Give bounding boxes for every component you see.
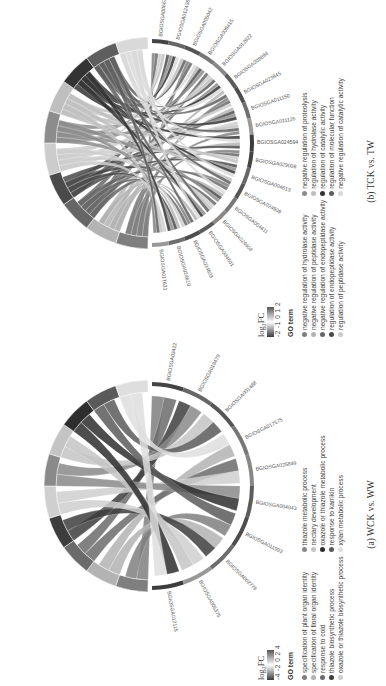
legend-dot-icon — [338, 675, 343, 680]
gene-label: BGIOSGA011993 — [245, 531, 284, 555]
gene-arc — [152, 39, 169, 45]
legend-label: regulation of hydrolase activity — [309, 100, 318, 189]
gene-arc — [247, 118, 254, 135]
legend-dot-icon — [329, 332, 334, 337]
legend-dot-icon — [329, 547, 334, 552]
legend-dot-icon — [311, 547, 316, 552]
gene-label: BGIOSGA025849 — [255, 460, 297, 472]
log2fc-scale: log₂FC -2 -1 0 1 2 — [256, 302, 281, 337]
gene-label: BGIOSGA005375 — [198, 579, 223, 618]
gene-arc — [242, 102, 251, 119]
chord-links — [56, 392, 240, 580]
gene-label: BGIOSGA005042 — [191, 7, 214, 47]
go-term-title: GO term — [287, 652, 294, 680]
legend-item: nectary development — [309, 435, 318, 552]
scale-ticks: -2 -1 0 1 2 — [274, 302, 281, 337]
gene-arc — [247, 151, 254, 168]
legend-column: specification of plant organ identityspe… — [300, 556, 345, 680]
gene-label: BGIOSGA019479 — [197, 353, 222, 392]
legend-dot-icon — [311, 191, 316, 196]
legend-dot-icon — [302, 191, 307, 196]
gene-arc — [245, 486, 254, 518]
gene-label: BGIOSGA011126 — [255, 115, 296, 128]
legend-item: regulation of catalytic activity — [318, 78, 327, 196]
legend-item: negative regulation of endopeptidase act… — [318, 200, 327, 337]
gene-label: BGIOSGA004613 — [251, 174, 292, 193]
legend-item: negative regulation of proteolysis — [300, 78, 309, 196]
legend-dot-icon — [338, 547, 343, 552]
scale-ticks: -4 -2 0 2 4 — [274, 645, 281, 680]
legend-item: regulation of hydrolase activity — [309, 78, 318, 196]
gene-label: BGIOSGA023845 — [243, 70, 282, 95]
legend-item: specification of plant organ identity — [300, 556, 309, 680]
gene-arc — [242, 167, 251, 184]
legend-label: response to karrikin — [327, 488, 336, 546]
legend-column: negative regulation of proteolysisregula… — [300, 78, 345, 196]
legend-item: regulation of endopeptidase activity — [327, 200, 336, 337]
legend-dot-icon — [320, 675, 325, 680]
chord-links — [56, 49, 240, 237]
gene-label: BGIOSGA024908 — [222, 218, 255, 252]
legend-item: thiazole metabolic process — [300, 435, 309, 552]
gene-label: BGIOSGA017575 — [244, 416, 284, 440]
legend-label: negative regulation of hydrolase activit… — [300, 215, 309, 330]
legend-dot-icon — [338, 191, 343, 196]
go-term-legend: negative regulation of hydrolase activit… — [300, 1, 345, 337]
gene-label: BGIOSGA012922 — [221, 32, 254, 66]
scale-title: log₂FC — [256, 645, 266, 680]
legend-dot-icon — [320, 547, 325, 552]
legend-label: regulation of endopeptidase activity — [327, 227, 336, 330]
scale-title: log₂FC — [256, 302, 266, 337]
legend-label: regulation of peptidase activity — [336, 241, 345, 330]
legend-dot-icon — [302, 547, 307, 552]
legend-dot-icon — [338, 332, 343, 337]
legend-item: negative regulation of catalytic activit… — [336, 78, 345, 196]
gene-label: BGIOSGA004043 — [255, 499, 297, 511]
gene-label: BGIOSGA011150 — [250, 92, 290, 111]
legend-label: negative regulation of catalytic activit… — [336, 78, 345, 189]
legend-dot-icon — [302, 675, 307, 680]
legend-dot-icon — [320, 332, 325, 337]
gene-label: BGIOSGA024610 — [176, 245, 193, 286]
legend-item: oxazole or thiazole metabolic process — [318, 435, 327, 552]
legend-label: negative regulation of endopeptidase act… — [318, 200, 327, 330]
panel-b: BGIOSGA006678BGIOSGA012436BGIOSGA005042B… — [0, 0, 386, 343]
legend-label: oxazole or thiazole biosynthetic process — [336, 556, 345, 673]
panel-a: BGIOSGA034225BGIOSGA019479BGIOSGA001488B… — [0, 343, 386, 686]
legend-item: specification of floral organ identity — [309, 556, 318, 680]
gene-arc — [152, 581, 184, 590]
legend-label: oxazole or thiazole metabolic process — [318, 435, 327, 545]
gene-arc — [250, 135, 254, 152]
gene-label: BGIOSGA034225 — [165, 343, 178, 381]
legend-item: thiazole biosynthetic process — [327, 556, 336, 680]
gene-arc — [184, 45, 201, 56]
panel-caption: (b) TCK vs. TW — [366, 0, 376, 343]
scale-gradient — [267, 650, 274, 680]
gene-label: BGIOSGA008694 — [233, 50, 269, 80]
legend-item: response to cold — [318, 556, 327, 680]
legend-label: response to cold — [318, 625, 327, 673]
gene-label: BGIOSGA004603 — [192, 239, 215, 279]
legend-dot-icon — [311, 332, 316, 337]
legend-item: negative regulation of hydrolase activit… — [300, 200, 309, 337]
legend-label: negative regulation of peptidase activit… — [309, 215, 318, 330]
go-term-title: GO term — [287, 309, 294, 337]
legend-label: regulation of molecular function — [327, 97, 336, 189]
legend-dot-icon — [329, 675, 334, 680]
legend-label: specification of floral organ identity — [309, 572, 318, 673]
legend-item: xylan metabolic process — [336, 435, 345, 552]
go-term-legend: specification of plant organ identityspe… — [300, 344, 345, 680]
legend-column: thiazole metabolic processnectary develo… — [300, 435, 345, 552]
gene-label: BGIOSGA012436 — [175, 0, 192, 40]
gene-label: BGIOSGA017631 — [158, 249, 168, 291]
legend-item: response to karrikin — [327, 435, 336, 552]
log2fc-scale: log₂FC -4 -2 0 2 4 — [256, 645, 281, 680]
gene-label: BGIOSGA029008 — [255, 157, 297, 170]
panel-caption: (a) WCK vs. WW — [366, 343, 376, 686]
gene-arc — [168, 41, 185, 49]
legend-column: negative regulation of hydrolase activit… — [300, 200, 345, 337]
legend-label: xylan metabolic process — [336, 475, 345, 545]
legend-label: negative regulation of proteolysis — [300, 92, 309, 188]
legend-dot-icon — [311, 675, 316, 680]
gene-label: BGIOSGA001488 — [224, 380, 258, 413]
